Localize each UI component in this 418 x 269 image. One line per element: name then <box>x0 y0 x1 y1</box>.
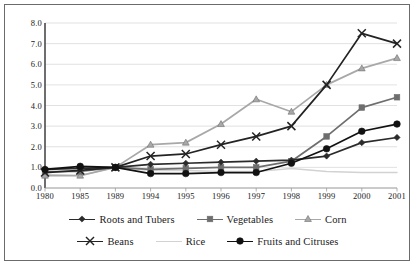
legend-marker-square-icon <box>197 214 223 225</box>
series-beans <box>41 29 401 176</box>
legend-label: Vegetables <box>227 214 273 225</box>
legend-marker-cross-icon <box>77 236 103 247</box>
legend-label: Fruits and Citruses <box>257 236 338 247</box>
legend-item-vegetables[interactable]: Vegetables <box>197 214 273 225</box>
chart-legend: Roots and TubersVegetablesCorn BeansRice… <box>5 208 411 260</box>
y-tick-2.0: 2.0 <box>31 142 42 152</box>
legend-label: Beans <box>107 236 133 247</box>
series-layer <box>41 29 401 178</box>
legend-marker-triangle-icon <box>295 214 321 225</box>
y-tick-1.0: 1.0 <box>31 162 42 172</box>
y-tick-3.0: 3.0 <box>31 121 42 131</box>
x-tick-1989: 1989 <box>106 191 124 201</box>
x-tick-2000: 2000 <box>353 191 371 201</box>
y-tick-7.0: 7.0 <box>31 39 42 49</box>
legend-item-beans[interactable]: Beans <box>77 236 133 247</box>
legend-item-roots-and-tubers[interactable]: Roots and Tubers <box>69 214 174 225</box>
x-tick-1999: 1999 <box>318 191 336 201</box>
legend-label: Corn <box>325 214 346 225</box>
legend-row-2: BeansRiceFruits and Citruses <box>5 230 411 252</box>
legend-item-rice[interactable]: Rice <box>156 236 206 247</box>
legend-marker-circle-icon <box>227 236 253 247</box>
x-tick-1994: 1994 <box>142 191 160 201</box>
plot-area: 8.07.06.05.04.03.02.01.00.0 198019851989… <box>5 5 411 205</box>
legend-item-fruits-and-citruses[interactable]: Fruits and Citruses <box>227 236 338 247</box>
x-tick-2001: 2001 <box>388 191 406 201</box>
chart-frame: 8.07.06.05.04.03.02.01.00.0 198019851989… <box>4 4 410 261</box>
x-tick-1997: 1997 <box>247 191 265 201</box>
y-tick-4.0: 4.0 <box>31 101 42 111</box>
legend-row-1: Roots and TubersVegetablesCorn <box>5 208 411 230</box>
x-tick-1998: 1998 <box>282 191 300 201</box>
x-tick-1985: 1985 <box>71 191 89 201</box>
x-tick-1996: 1996 <box>212 191 230 201</box>
legend-marker-line-icon <box>156 236 182 247</box>
y-tick-8.0: 8.0 <box>31 18 42 28</box>
y-tick-6.0: 6.0 <box>31 59 42 69</box>
y-axis-labels: 8.07.06.05.04.03.02.01.00.0 <box>5 5 45 205</box>
legend-item-corn[interactable]: Corn <box>295 214 346 225</box>
x-tick-1980: 1980 <box>36 191 54 201</box>
legend-marker-diamond-icon <box>69 214 95 225</box>
legend-label: Roots and Tubers <box>99 214 174 225</box>
x-tick-1995: 1995 <box>177 191 195 201</box>
y-tick-5.0: 5.0 <box>31 80 42 90</box>
x-axis-labels: 1980198519891994199519961997199819992000… <box>45 191 397 207</box>
legend-label: Rice <box>186 236 206 247</box>
chart-svg <box>45 23 397 188</box>
